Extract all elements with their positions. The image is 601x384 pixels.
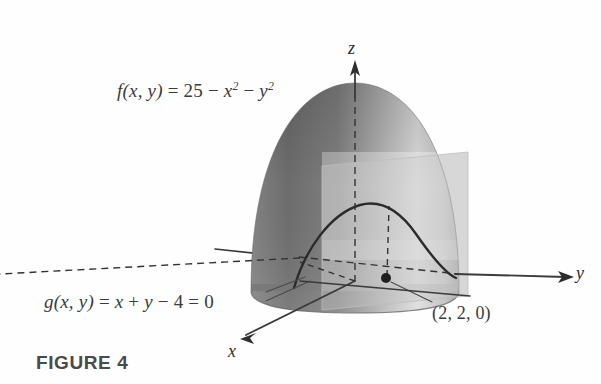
constraint-g-symbol: g: [44, 291, 54, 312]
surface-equation-label: f(x, y) = 25 − x2 − y2: [117, 80, 274, 102]
figure-caption: FIGURE 4: [36, 352, 128, 374]
figure-graphic: [0, 0, 601, 384]
constraint-args: (x, y): [54, 291, 94, 312]
surface-minus-sign: −: [238, 80, 259, 101]
y-axis-line: [455, 274, 566, 277]
y-axis-label: y: [576, 263, 584, 284]
constraint-y-var: y: [144, 291, 153, 312]
point-dot: [381, 273, 391, 283]
constraint-remainder: − 4 = 0: [153, 291, 214, 312]
surface-eq-part: = 25 −: [163, 80, 224, 101]
constraint-plus-sign: +: [123, 291, 144, 312]
marked-point-group: [381, 273, 391, 283]
surface-y-exponent: 2: [268, 80, 274, 93]
point-coordinate-label: (2, 2, 0): [432, 303, 491, 324]
constraint-eq-sign: =: [94, 291, 115, 312]
constraint-equation-label: g(x, y) = x + y − 4 = 0: [44, 291, 214, 313]
surface-args: (x, y): [122, 80, 162, 101]
surface-y-var: y: [259, 80, 268, 101]
figure-container: f(x, y) = 25 − x2 − y2 g(x, y) = x + y −…: [0, 0, 601, 384]
x-axis-label: x: [228, 341, 236, 362]
z-axis-label: z: [348, 38, 355, 59]
